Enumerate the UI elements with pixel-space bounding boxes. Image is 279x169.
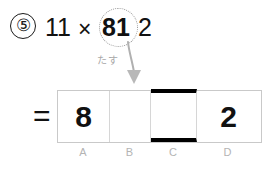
column-label-a: A: [57, 144, 109, 162]
answer-cell-b[interactable]: [110, 91, 151, 142]
expression-left-factor: 11: [45, 12, 71, 42]
column-label-d: D: [196, 144, 259, 162]
answer-cell-c[interactable]: [151, 89, 197, 142]
answer-grid: 8 2: [57, 90, 262, 143]
down-arrow-icon: [108, 40, 154, 92]
item-number-badge: ⑤: [10, 13, 36, 39]
answer-area: = 8 2 A B C D: [0, 88, 279, 169]
expression-trailing-digit: 2: [138, 12, 152, 42]
equals-sign: =: [33, 100, 51, 132]
column-label-b: B: [109, 144, 150, 162]
annotation-layer: たす: [0, 40, 279, 92]
column-labels: A B C D: [57, 144, 262, 162]
column-label-c: C: [150, 144, 196, 162]
answer-cell-a[interactable]: 8: [58, 91, 110, 142]
answer-cell-d[interactable]: 2: [197, 91, 260, 142]
